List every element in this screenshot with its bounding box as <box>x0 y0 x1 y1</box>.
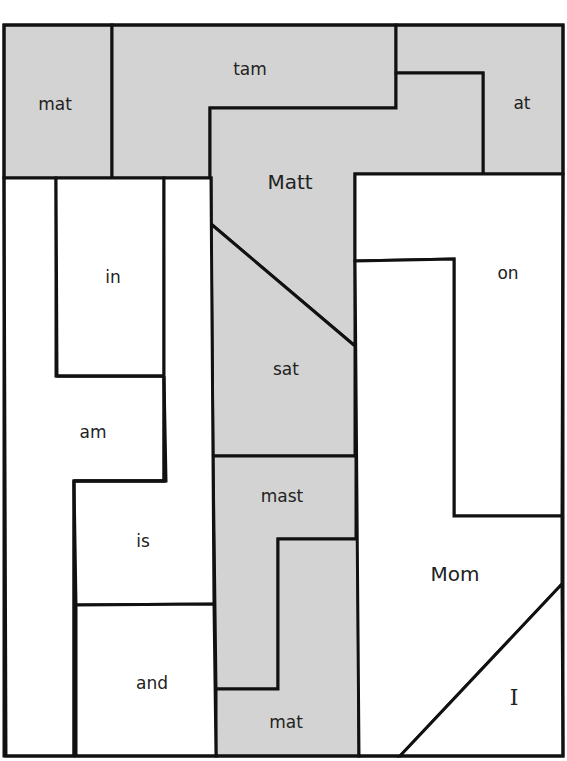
label-is: is <box>136 531 150 551</box>
label-mat-bottom: mat <box>269 712 303 732</box>
label-mat-top: mat <box>38 94 72 114</box>
label-on: on <box>497 263 518 283</box>
label-mom: Mom <box>431 562 480 586</box>
label-tam: tam <box>233 59 267 79</box>
label-i: I <box>510 685 519 710</box>
label-am: am <box>80 422 107 442</box>
label-matt: Matt <box>267 170 312 194</box>
label-sat: sat <box>273 359 299 379</box>
label-in: in <box>105 267 121 287</box>
label-at: at <box>513 93 530 113</box>
label-and: and <box>136 673 168 693</box>
label-mast: mast <box>261 486 304 506</box>
word-shape-puzzle: mat tam at Matt in on sat am mast is Mom… <box>0 0 567 761</box>
